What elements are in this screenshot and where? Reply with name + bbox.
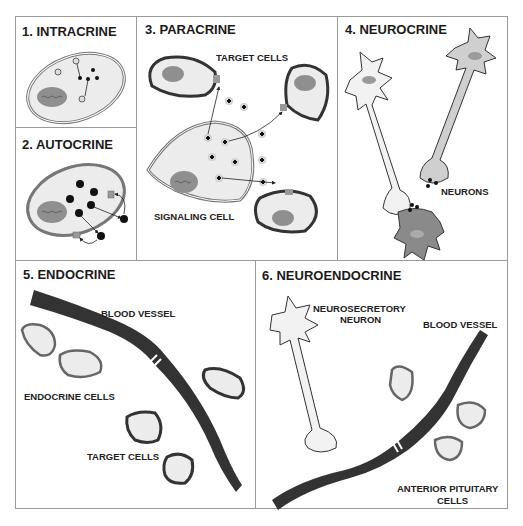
label-neurosecretory: NEUROSECRETORY xyxy=(313,303,406,314)
label-anterior-pituitary: ANTERIOR PITUITARY xyxy=(397,483,498,494)
intracrine-cell xyxy=(18,41,134,135)
label-target-cells-paracrine: TARGET CELLS xyxy=(216,52,288,63)
label-cells: CELLS xyxy=(437,495,468,506)
autocrine-cell xyxy=(18,152,135,248)
label-neurons: NEURONS xyxy=(441,186,489,197)
diagram-artwork xyxy=(0,0,523,526)
label-neuron: NEURON xyxy=(340,314,381,325)
label-signaling-cell: SIGNALING CELL xyxy=(154,211,234,222)
neurocrine-artwork xyxy=(345,28,496,260)
label-target-cells-endocrine: TARGET CELLS xyxy=(87,451,159,462)
label-endocrine-cells: ENDOCRINE CELLS xyxy=(24,391,115,402)
label-blood-vessel-neuroendocrine: BLOOD VESSEL xyxy=(423,319,497,330)
label-blood-vessel-endocrine: BLOOD VESSEL xyxy=(101,308,175,319)
paracrine-artwork xyxy=(148,57,328,232)
